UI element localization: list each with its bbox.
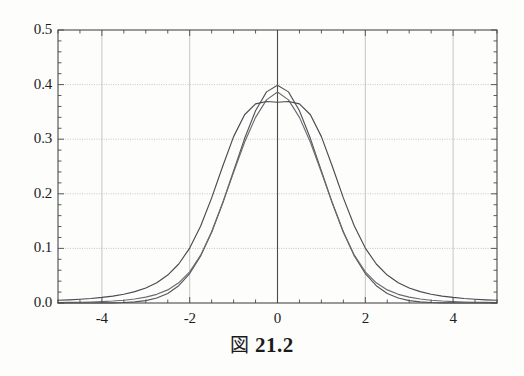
y-tick-label: 0.5 xyxy=(6,21,52,38)
x-tick-label: -4 xyxy=(82,310,122,327)
chart-svg xyxy=(0,0,524,318)
y-tick-label: 0.4 xyxy=(6,76,52,93)
x-tick-label: 2 xyxy=(345,310,385,327)
y-tick-label: 0.0 xyxy=(6,294,52,311)
x-tick-label: 4 xyxy=(433,310,473,327)
chart-plot-area xyxy=(0,0,524,318)
y-tick-label: 0.1 xyxy=(6,239,52,256)
figure-caption: 図21.2 xyxy=(0,330,524,358)
y-tick-label: 0.3 xyxy=(6,130,52,147)
x-tick-label: -2 xyxy=(170,310,210,327)
caption-figure-number: 21.2 xyxy=(255,333,294,357)
figure-container: 0.00.10.20.30.40.5 -4-2024 図21.2 xyxy=(0,0,524,376)
x-tick-label: 0 xyxy=(258,310,298,327)
y-tick-label: 0.2 xyxy=(6,185,52,202)
caption-figure-word: 図 xyxy=(230,334,255,356)
